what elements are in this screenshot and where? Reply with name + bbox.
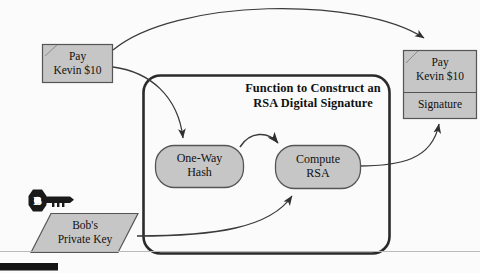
one-way-hash-shape[interactable] [156, 146, 244, 188]
diagram-vector-layer [0, 0, 480, 273]
edge-rsa-to-signature [358, 124, 439, 166]
compute-rsa-shape[interactable] [276, 146, 361, 189]
plaintext-message-shape[interactable] [43, 45, 113, 83]
edge-message-to-signed-message [113, 9, 424, 50]
edge-message-to-hash [113, 67, 183, 138]
private-key-shape[interactable] [31, 214, 138, 253]
key-icon [29, 190, 75, 212]
diagram-canvas: PayKevin $10 PayKevin $10 Signature Func… [0, 0, 480, 273]
signed-message-shape[interactable] [404, 51, 477, 119]
edge-private-key-to-rsa [137, 196, 292, 236]
edge-hash-to-rsa [240, 134, 278, 147]
footer-bar [0, 263, 58, 271]
